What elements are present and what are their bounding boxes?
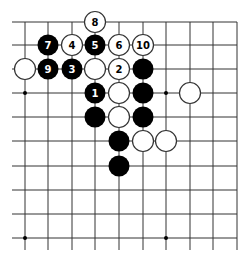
star-point [164,91,168,95]
black-stone [85,107,106,128]
go-board: 87456109321 [0,0,248,261]
black-stone: 3 [62,59,83,80]
white-stone [85,59,106,80]
black-stone [133,83,154,104]
white-stone [156,131,177,152]
move-number-label: 8 [92,17,99,28]
move-number-label: 1 [92,88,99,99]
black-stone [109,156,130,177]
black-stone [109,131,130,152]
black-stone [133,59,154,80]
white-stone [109,107,130,128]
stones: 87456109321 [15,12,201,177]
black-stone: 9 [38,59,59,80]
white-stone: 8 [85,12,106,33]
white-stone [180,83,201,104]
white-stone: 2 [109,59,130,80]
black-stone [133,107,154,128]
move-number-label: 4 [69,40,76,51]
move-number-label: 3 [69,64,76,75]
black-stone: 1 [85,83,106,104]
white-stone: 10 [133,35,154,56]
move-number-label: 10 [136,40,150,51]
white-stone [133,131,154,152]
white-stone: 4 [62,35,83,56]
star-point [23,91,27,95]
black-stone: 7 [38,35,59,56]
black-stone: 5 [85,35,106,56]
move-number-label: 7 [45,40,52,51]
move-number-label: 9 [45,64,52,75]
star-point [23,236,27,240]
white-stone [109,83,130,104]
move-number-label: 5 [92,40,99,51]
white-stone: 6 [109,35,130,56]
star-point [164,236,168,240]
white-stone [15,59,36,80]
move-number-label: 6 [116,40,123,51]
move-number-label: 2 [116,64,123,75]
